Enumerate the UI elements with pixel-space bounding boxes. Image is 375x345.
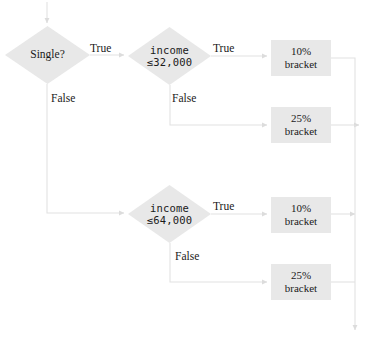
outcome-node-bracket-25-bottom[interactable]: 25% bracket <box>271 264 331 300</box>
outcome-line1: 25% <box>285 269 317 282</box>
decision-node-income-32000[interactable]: income ≤32,000 <box>128 27 211 85</box>
decision-node-income-64000-line1: income <box>147 202 193 214</box>
outcome-node-bracket-25-bottom-label: 25% bracket <box>285 269 317 295</box>
outcome-node-bracket-25-top-label: 25% bracket <box>285 112 317 138</box>
decision-node-income-64000-label: income ≤64,000 <box>147 202 193 227</box>
decision-node-income-64000-line2: ≤64,000 <box>147 214 193 226</box>
flowchart-canvas: Single? income ≤32,000 10% bracket 25% b… <box>0 0 375 345</box>
edge-label-income32-true: True <box>213 42 234 54</box>
decision-node-income-32000-line1: income <box>147 44 193 56</box>
outcome-node-bracket-10-top-label: 10% bracket <box>285 45 317 71</box>
outcome-line2: bracket <box>285 58 317 71</box>
outcome-node-bracket-10-bottom-label: 10% bracket <box>285 202 317 228</box>
outcome-line1: 10% <box>285 45 317 58</box>
outcome-line1: 25% <box>285 112 317 125</box>
edge-label-single-false: False <box>51 92 75 104</box>
edge-label-single-true: True <box>90 42 111 54</box>
edge-income64-false <box>170 243 267 282</box>
decision-node-income-32000-line2: ≤32,000 <box>147 56 193 68</box>
outcome-node-bracket-10-top[interactable]: 10% bracket <box>271 40 331 76</box>
decision-node-single-label: Single? <box>30 48 65 62</box>
outcome-node-bracket-25-top[interactable]: 25% bracket <box>271 107 331 143</box>
decision-node-single[interactable]: Single? <box>5 26 90 84</box>
outcome-line2: bracket <box>285 215 317 228</box>
decision-node-income-64000[interactable]: income ≤64,000 <box>128 185 211 243</box>
edge-label-income64-true: True <box>213 200 234 212</box>
outcome-line1: 10% <box>285 202 317 215</box>
edge-income32-false <box>170 85 267 125</box>
outcome-line2: bracket <box>285 282 317 295</box>
decision-node-income-32000-label: income ≤32,000 <box>147 44 193 69</box>
outcome-line2: bracket <box>285 125 317 138</box>
edge-label-income32-false: False <box>172 92 196 104</box>
outcome-node-bracket-10-bottom[interactable]: 10% bracket <box>271 197 331 233</box>
edge-label-income64-false: False <box>175 250 199 262</box>
edge-bracket10a-exit <box>331 58 355 125</box>
